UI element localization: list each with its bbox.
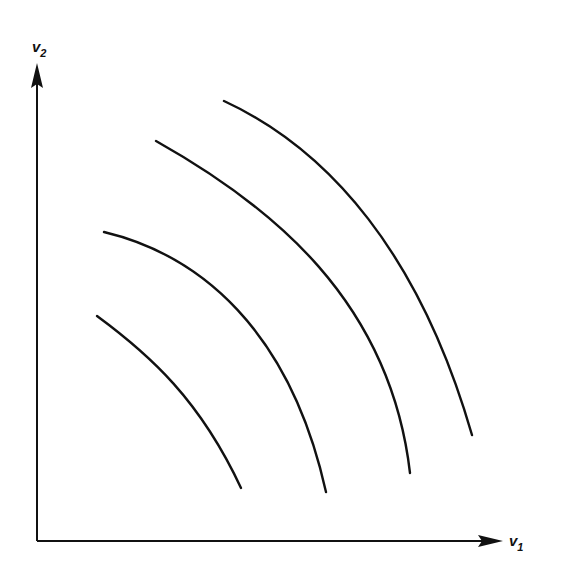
x-axis-label: v1: [509, 532, 523, 552]
curve-3: [156, 141, 410, 473]
curve-4: [224, 101, 472, 435]
curve-2: [104, 232, 326, 492]
curve-1: [97, 316, 241, 488]
x-axis-label-subscript: 1: [517, 541, 523, 553]
diagram-canvas: [0, 0, 582, 570]
y-axis-label-subscript: 2: [40, 47, 46, 59]
y-axis-label: v2: [32, 38, 46, 58]
indifference-curves: [97, 101, 472, 492]
